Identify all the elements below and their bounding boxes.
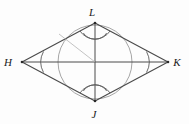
geometry-figure: L H K J: [0, 0, 189, 124]
vertex-dot-j: [94, 100, 97, 103]
vertex-dot-l: [94, 22, 97, 25]
vertex-label-j: J: [92, 108, 98, 120]
vertex-dot-k: [167, 61, 170, 64]
vertex-dot-h: [21, 61, 24, 64]
vertex-label-l: L: [88, 6, 95, 18]
rhombus-diagram-svg: L H K J: [0, 0, 189, 124]
vertex-label-h: H: [3, 56, 13, 68]
vertex-label-k: K: [172, 56, 181, 68]
